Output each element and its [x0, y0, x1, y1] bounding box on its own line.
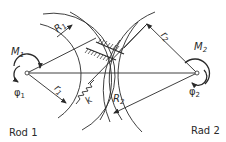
wheel1-caption: Rod 1 — [9, 127, 38, 138]
r1-label: r1 — [51, 82, 66, 97]
phi2-label: φ2 — [189, 86, 200, 99]
R2-label: R2 — [113, 93, 125, 106]
wheel1-R-line — [27, 38, 96, 73]
wheel1-inner-arc — [40, 24, 81, 118]
wheel2-center — [195, 71, 199, 75]
wheel2-r-line — [147, 24, 197, 73]
angle1-arrow-icon — [14, 66, 20, 82]
phi1-label: φ1 — [14, 87, 25, 100]
wheel1-center — [25, 71, 29, 75]
r2-label: r2 — [158, 29, 174, 45]
wheel2-R-line — [114, 73, 197, 113]
M1-label: M1 — [11, 46, 24, 59]
M2-label: M2 — [194, 41, 208, 54]
angle2-arrow-icon — [192, 70, 207, 85]
wheel2-caption: Rad 2 — [191, 125, 220, 136]
gear-contact-diagram: M1 φ1 R1 r1 k r2 R2 M2 φ2 Rod 1 Rad 2 — [0, 0, 226, 142]
k-label: k — [83, 93, 95, 106]
